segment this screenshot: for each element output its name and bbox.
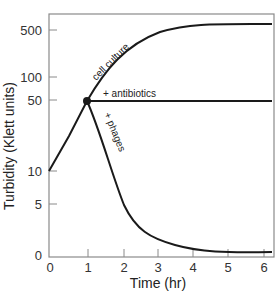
- x-tick-label: 6: [260, 260, 267, 275]
- y-tick-label: 50: [28, 93, 42, 108]
- y-tick-label: 0: [35, 248, 42, 263]
- y-axis-title: Turbidity (Klett units): [1, 82, 17, 210]
- plot-frame: [49, 14, 274, 257]
- turbidity-chart: 500 100 50 10 5 0 0 1 2 3 4 5 6 Time (hr…: [0, 0, 279, 294]
- annotation-cell-culture: cell culture: [90, 41, 132, 83]
- y-tick-labels: 500 100 50 10 5 0: [20, 23, 42, 263]
- y-tick-label: 500: [20, 23, 42, 38]
- y-tick-label: 5: [35, 197, 42, 212]
- y-axis: [49, 30, 57, 204]
- x-axis-title: Time (hr): [130, 275, 186, 291]
- series-cell-culture: [49, 24, 272, 171]
- x-tick-label: 0: [46, 260, 53, 275]
- x-tick-label: 5: [224, 260, 231, 275]
- y-tick-label: 100: [20, 70, 42, 85]
- y-tick-label: 10: [28, 164, 42, 179]
- x-tick-label: 1: [84, 260, 91, 275]
- annotation-antibiotics: + antibiotics: [103, 88, 156, 99]
- x-tick-label: 3: [154, 260, 161, 275]
- x-tick-label: 2: [120, 260, 127, 275]
- x-tick-labels: 0 1 2 3 4 5 6: [46, 260, 267, 275]
- annotation-phages: + phages: [102, 111, 128, 154]
- branch-point-marker: [83, 97, 91, 105]
- x-tick-label: 4: [189, 260, 196, 275]
